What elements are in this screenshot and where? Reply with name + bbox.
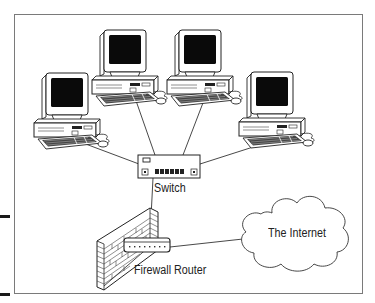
computer-icon	[92, 30, 167, 106]
internet-label: The Internet	[268, 226, 326, 240]
diagram-canvas	[0, 0, 375, 303]
firewall-router-label: Firewall Router	[134, 263, 206, 277]
computer-icon	[167, 30, 242, 106]
switch-icon	[138, 155, 200, 178]
computer-icon	[239, 72, 314, 148]
router-icon	[124, 238, 170, 252]
link-pc2-switch	[134, 95, 155, 155]
switch-label: Switch	[154, 181, 186, 195]
network-diagram: Switch Firewall Router The Internet	[0, 0, 375, 303]
link-router-internet	[170, 239, 243, 247]
